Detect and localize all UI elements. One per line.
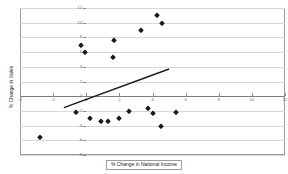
scatter-chart: -8-6-4-2024681012 -4-2024681012 % Change… [0,0,288,174]
trend-line [20,8,285,155]
y-tick-mark [83,155,86,156]
y-axis-title: % Change in Sales [9,52,14,122]
x-tick-mark [285,93,286,96]
x-axis-title: % Change in National Income [106,160,182,170]
gridline [20,155,285,156]
plot-area: -8-6-4-2024681012 -4-2024681012 [20,8,285,155]
